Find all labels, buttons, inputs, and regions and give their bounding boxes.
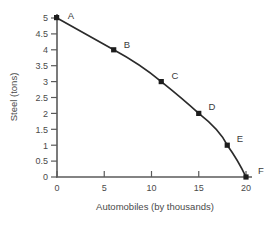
marker-point-d — [196, 111, 201, 116]
y-tick-label-1: 1 — [43, 141, 48, 151]
ppf-chart: 0 0.5 1 1.5 2 2.5 3 3.5 4 4.5 5 0 5 10 1… — [0, 0, 276, 228]
y-axis-title: Steel (tons) — [8, 73, 19, 122]
marker-point-e — [225, 143, 230, 148]
y-tick-label-3-5: 3.5 — [35, 61, 48, 71]
point-label-a: A — [68, 10, 75, 21]
x-tick-label-10: 10 — [146, 183, 156, 193]
marker-point-b — [111, 47, 116, 52]
x-tick-label-0: 0 — [54, 183, 59, 193]
x-tick-label-20: 20 — [241, 183, 251, 193]
x-tick-label-5: 5 — [102, 183, 107, 193]
point-label-b: B — [124, 39, 130, 50]
y-tick-label-4: 4 — [43, 45, 48, 55]
y-tick-label-1-5: 1.5 — [35, 125, 48, 135]
marker-point-f — [243, 174, 248, 179]
marker-point-a — [54, 15, 59, 20]
y-tick-label-3: 3 — [43, 77, 48, 87]
y-tick-label-4-5: 4.5 — [35, 29, 48, 39]
y-tick-label-0-5: 0.5 — [35, 156, 48, 166]
point-label-f: F — [258, 165, 264, 176]
y-tick-label-2-5: 2.5 — [35, 93, 48, 103]
x-axis-title: Automobiles (by thousands) — [96, 201, 214, 212]
y-tick-label-5: 5 — [43, 13, 48, 23]
chart-container: 0 0.5 1 1.5 2 2.5 3 3.5 4 4.5 5 0 5 10 1… — [0, 0, 276, 228]
marker-point-c — [159, 79, 164, 84]
point-label-c: C — [172, 70, 179, 81]
y-tick-label-0: 0 — [43, 172, 48, 182]
x-tick-label-15: 15 — [194, 183, 204, 193]
point-label-d: D — [209, 101, 216, 112]
y-tick-label-2: 2 — [43, 109, 48, 119]
point-label-e: E — [237, 133, 243, 144]
